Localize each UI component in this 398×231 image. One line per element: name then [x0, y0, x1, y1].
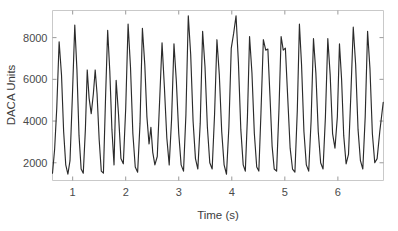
y-tick-label-6000: 6000 — [23, 73, 47, 85]
y-axis-label: DACA Units — [5, 64, 17, 125]
daca-units-time-series-chart: 123456 2000400060008000 Time (s) DACA Un… — [0, 0, 398, 231]
x-tick-label-5: 5 — [282, 186, 288, 198]
x-tick-label-2: 2 — [123, 186, 129, 198]
chart-figure: 123456 2000400060008000 Time (s) DACA Un… — [0, 0, 398, 231]
x-tick-label-3: 3 — [176, 186, 182, 198]
x-axis-label: Time (s) — [197, 209, 239, 221]
x-tick-label-4: 4 — [229, 186, 235, 198]
y-tick-label-8000: 8000 — [23, 32, 47, 44]
x-tick-label-1: 1 — [70, 186, 76, 198]
x-tick-label-6: 6 — [335, 186, 341, 198]
y-tick-label-2000: 2000 — [23, 157, 47, 169]
y-tick-label-4000: 4000 — [23, 115, 47, 127]
